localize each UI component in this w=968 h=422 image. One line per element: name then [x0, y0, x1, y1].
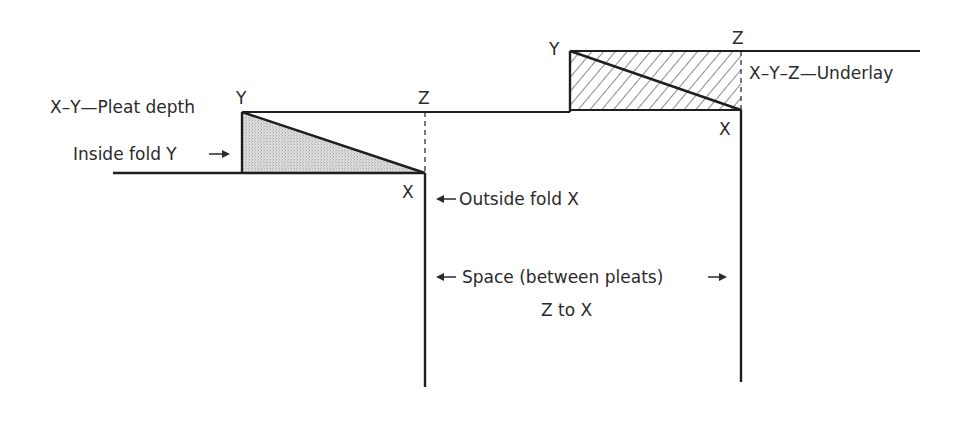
space-range-label: Z to X	[541, 300, 593, 320]
space-label: Space (between pleats)	[462, 267, 663, 287]
arrow-right-icon	[209, 150, 230, 158]
right-point-label-y: Y	[548, 39, 560, 59]
pleat-diagram: Y Z X X–Y—Pleat depth Inside fold Y Outs…	[0, 0, 968, 422]
left-pleat: Y Z X X–Y—Pleat depth Inside fold Y Outs…	[50, 88, 579, 387]
arrow-left-icon	[436, 195, 456, 203]
pleat-depth-label: X–Y—Pleat depth	[50, 97, 195, 117]
space-annotation: Space (between pleats) Z to X	[436, 267, 727, 320]
right-point-label-z: Z	[732, 28, 744, 48]
underlay-label: X–Y–Z—Underlay	[749, 63, 893, 83]
point-label-z: Z	[418, 88, 430, 108]
arrow-right-icon	[708, 273, 727, 281]
inside-fold-label: Inside fold Y	[73, 144, 177, 164]
arrow-left-icon	[436, 273, 456, 281]
outside-fold-label: Outside fold X	[459, 189, 579, 209]
right-point-label-x: X	[719, 119, 731, 139]
point-label-y: Y	[235, 88, 247, 108]
point-label-x: X	[402, 182, 414, 202]
right-pleat: Y Z X X–Y–Z—Underlay	[548, 28, 920, 382]
